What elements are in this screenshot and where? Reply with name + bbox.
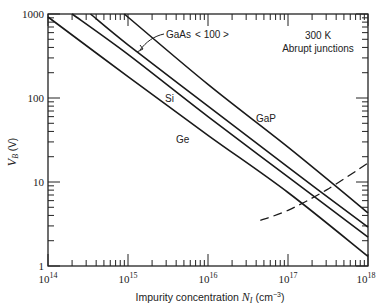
y-tick-1000: 1000 <box>22 8 45 20</box>
y-tick-10: 10 <box>33 176 45 188</box>
si-label: Si <box>165 93 174 104</box>
x-axis-title: Impurity concentration NI (cm−3) <box>136 290 285 305</box>
gap-label: GaP <box>256 113 276 124</box>
x-tick-1e15: 1015 <box>119 271 138 285</box>
gaas-leader-line <box>140 34 164 50</box>
temperature-label: 300 K <box>305 30 331 41</box>
breakdown-voltage-chart: 1000 100 10 1 1014 1015 1016 1017 1018 I… <box>0 0 388 306</box>
curve-tunneling-limit <box>260 163 368 220</box>
y-axis-title: VB (V) <box>5 138 20 166</box>
x-tick-1e18: 1018 <box>357 271 376 285</box>
x-tick-1e16: 1016 <box>199 271 218 285</box>
ge-label: Ge <box>176 134 190 145</box>
x-tick-labels: 1014 1015 1016 1017 1018 <box>39 271 376 285</box>
y-tick-100: 100 <box>28 92 45 104</box>
gaas-label: GaAs< 100 > <box>166 29 229 40</box>
x-tick-1e17: 1017 <box>279 271 298 285</box>
junction-type-label: Abrupt junctions <box>282 43 354 54</box>
x-tick-1e14: 1014 <box>39 271 58 285</box>
y-tick-1: 1 <box>39 260 45 272</box>
arrow-icon <box>137 45 143 52</box>
